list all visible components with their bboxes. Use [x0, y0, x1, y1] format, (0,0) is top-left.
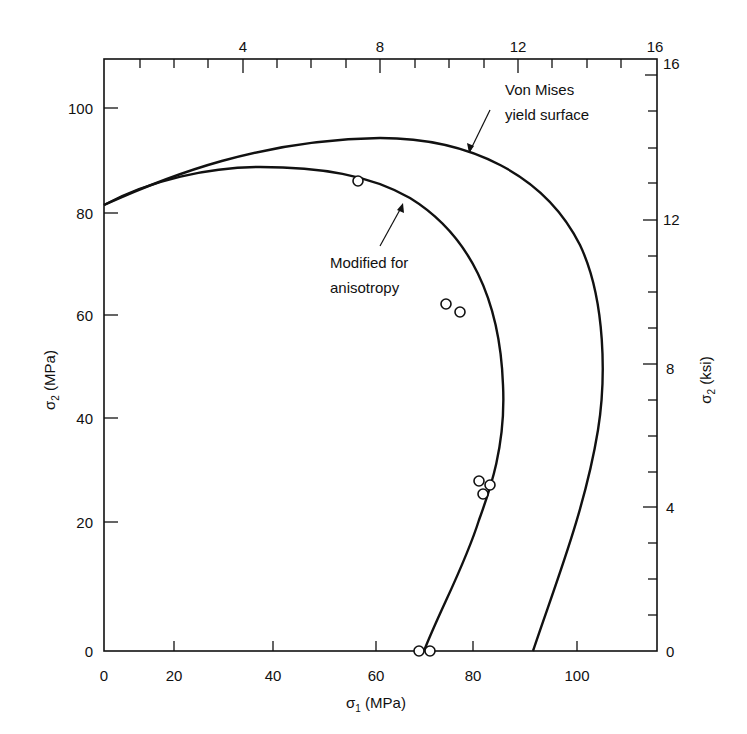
- right-tick-label: 4: [666, 499, 674, 516]
- y2-axis-title: σ2 (ksi): [697, 356, 717, 403]
- right-tick-label: 0: [666, 643, 674, 660]
- y-tick-label: 0: [85, 643, 93, 660]
- y-tick-label: 40: [76, 410, 93, 427]
- yield-surface-chart: 0 20 40 60 80 100 0 20 40 60 80 100 4 8 …: [0, 0, 747, 734]
- x-axis-title: σ1 (MPa): [346, 694, 406, 714]
- x-axis-ticks: [174, 641, 577, 651]
- x-tick-label: 100: [564, 667, 589, 684]
- data-point: [425, 646, 435, 656]
- y-tick-label: 100: [68, 100, 93, 117]
- data-point: [441, 299, 451, 309]
- data-point: [478, 489, 488, 499]
- top-tick-label: 12: [510, 38, 527, 55]
- top-axis-ticks: [140, 59, 621, 73]
- top-tick-label: 8: [376, 38, 384, 55]
- y-axis-ticks: [104, 108, 118, 522]
- anisotropy-curve: [104, 167, 503, 651]
- right-tick-label: 12: [663, 211, 680, 228]
- x-tick-label: 20: [166, 667, 183, 684]
- x-tick-label: 80: [465, 667, 482, 684]
- x-tick-label: 0: [100, 667, 108, 684]
- data-point: [353, 176, 363, 186]
- anisotropy-arrow: [380, 206, 402, 246]
- data-point: [455, 307, 465, 317]
- von-mises-label: Von Mises: [505, 81, 574, 98]
- von-mises-curve: [104, 138, 603, 651]
- arrowhead-icon: [397, 203, 404, 213]
- top-tick-label: 16: [647, 38, 664, 55]
- right-tick-label: 8: [666, 360, 674, 377]
- plot-frame: [104, 59, 657, 651]
- data-point: [414, 646, 424, 656]
- anisotropy-label: anisotropy: [330, 279, 400, 296]
- y-tick-label: 60: [76, 307, 93, 324]
- top-tick-label: 4: [239, 38, 247, 55]
- x-tick-label: 40: [265, 667, 282, 684]
- data-point: [474, 476, 484, 486]
- von-mises-label: yield surface: [505, 106, 589, 123]
- y-axis-title: σ2 (MPa): [41, 350, 61, 410]
- y-tick-label: 80: [76, 205, 93, 222]
- y-tick-label: 20: [76, 514, 93, 531]
- right-axis-ticks: [643, 75, 657, 615]
- right-tick-label: 16: [663, 55, 680, 72]
- data-point: [485, 480, 495, 490]
- von-mises-arrow: [470, 110, 490, 151]
- anisotropy-label: Modified for: [330, 254, 408, 271]
- data-points: [353, 176, 495, 656]
- x-tick-label: 60: [368, 667, 385, 684]
